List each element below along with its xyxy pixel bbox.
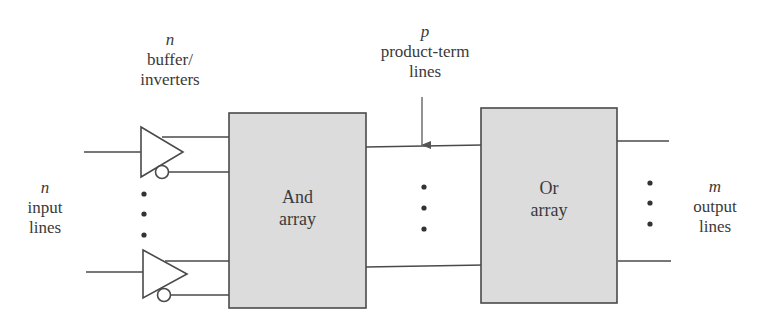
output-label-line1: output [675, 197, 755, 217]
ellipsis-outputs [647, 180, 652, 226]
and-array-label-line2: array [229, 208, 366, 230]
ellipsis-product-terms [421, 184, 426, 231]
input-count-var: n [10, 178, 80, 198]
and-array-label-line1: And [229, 186, 366, 208]
buffer-label-line1: buffer/ [110, 50, 230, 70]
buffer-count-var: n [110, 30, 230, 50]
input-label-line1: input [10, 198, 80, 218]
product-term-lines-label: p product-term lines [350, 22, 500, 82]
product-term-label-line1: product-term [350, 42, 500, 62]
inverter-bubble-top [156, 166, 169, 179]
input-lines-label: n input lines [10, 178, 80, 238]
or-array-label: Or array [481, 177, 617, 221]
buffer-inverters-label: n buffer/ inverters [110, 30, 230, 90]
product-term-line-top [366, 145, 482, 147]
product-term-count-var: p [350, 22, 500, 42]
output-count-var: m [675, 177, 755, 197]
or-array-label-line1: Or [481, 177, 617, 199]
product-term-label-line2: lines [350, 62, 500, 82]
output-label-line2: lines [675, 217, 755, 237]
and-array-label: And array [229, 186, 366, 230]
inverter-bubble-bottom [158, 289, 171, 302]
input-label-line2: lines [10, 218, 80, 238]
buffer-label-line2: inverters [110, 70, 230, 90]
product-term-line-bottom [366, 265, 484, 267]
output-lines-label: m output lines [675, 177, 755, 237]
ellipsis-buffers [141, 191, 146, 237]
or-array-label-line2: array [481, 199, 617, 221]
